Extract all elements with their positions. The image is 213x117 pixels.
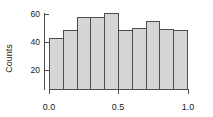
y-axis-label: Counts bbox=[0, 0, 18, 117]
histogram-bar bbox=[118, 30, 133, 89]
y-axis-tick-label-60-wrap: 60 bbox=[18, 14, 40, 15]
x-axis-tick-label-10: 1.0 bbox=[182, 102, 195, 112]
plot-area bbox=[49, 8, 188, 89]
y-axis-tick-label-20-wrap: 20 bbox=[18, 70, 40, 71]
x-axis-tick-0 bbox=[49, 89, 50, 94]
histogram-bar bbox=[104, 13, 119, 89]
histogram-bar bbox=[173, 30, 188, 89]
histogram-bar bbox=[49, 38, 64, 89]
y-axis-tick-label-60: 60 bbox=[18, 9, 40, 19]
y-axis-tick-label-40: 40 bbox=[18, 37, 40, 47]
y-axis-tick-label-20: 20 bbox=[18, 65, 40, 75]
histogram-bar bbox=[132, 28, 147, 89]
x-axis-tick-label-05-wrap: 0.5 bbox=[98, 96, 138, 114]
x-axis-tick-label-0-wrap: 0.0 bbox=[29, 96, 69, 114]
x-axis-tick-label-05: 0.5 bbox=[112, 102, 125, 112]
histogram-bar bbox=[146, 21, 161, 89]
x-axis-tick-05 bbox=[118, 89, 119, 94]
histogram-bar bbox=[77, 17, 92, 89]
y-axis-line bbox=[44, 13, 45, 90]
x-axis-tick-label-0: 0.0 bbox=[43, 102, 56, 112]
x-axis-tick-label-10-wrap: 1.0 bbox=[168, 96, 208, 114]
histogram-bar bbox=[159, 29, 174, 89]
histogram-bar bbox=[63, 30, 78, 89]
histogram-bars bbox=[49, 8, 188, 89]
histogram-figure: Counts 60 40 20 0.0 0.5 bbox=[0, 0, 213, 117]
x-axis-line bbox=[49, 89, 189, 90]
x-axis-tick-10 bbox=[188, 89, 189, 94]
histogram-bar bbox=[90, 17, 105, 89]
y-axis-tick-label-40-wrap: 40 bbox=[18, 42, 40, 43]
